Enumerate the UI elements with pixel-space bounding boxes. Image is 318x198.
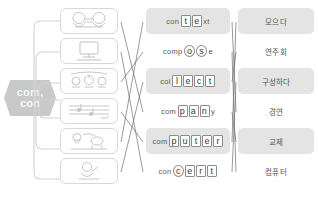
match-line — [121, 112, 143, 142]
highlight-letter: t — [207, 165, 217, 177]
music-score-icon — [61, 99, 117, 123]
match-line — [121, 52, 143, 82]
word-row[interactable]: con t e xt — [146, 8, 230, 34]
highlight-letter: u — [180, 135, 190, 147]
picture-card-column — [60, 8, 118, 188]
match-line — [232, 52, 236, 82]
two-people-talking-icon — [61, 9, 117, 33]
meaning-text: 모으다 — [265, 16, 287, 27]
word-suffix: y — [211, 107, 215, 116]
bracket-tree — [30, 14, 62, 186]
highlight-letter: t — [191, 135, 201, 147]
highlight-letter: p — [178, 105, 188, 117]
meaning-row[interactable]: 컴퓨터 — [238, 158, 314, 184]
highlight-letter: n — [200, 105, 210, 117]
picture-card[interactable] — [60, 158, 118, 184]
highlight-letter: t — [205, 75, 215, 87]
korean-meaning-column: 모으다 연주회 구성하다 경연 교제 컴퓨터 — [238, 8, 314, 188]
word-prefix: con — [159, 167, 172, 176]
meaning-row[interactable]: 모으다 — [238, 8, 314, 34]
meaning-row[interactable]: 연주회 — [238, 38, 314, 64]
computer-monitor-icon — [61, 39, 117, 63]
worksheet-canvas: com, con — [0, 0, 318, 198]
word-context: con t e xt — [166, 15, 209, 27]
person-writing-icon — [61, 159, 117, 183]
animals-gathering-icon — [61, 129, 117, 153]
word-row[interactable]: com p u t e r — [146, 128, 230, 154]
word-suffix: e — [209, 47, 213, 56]
picture-card[interactable] — [60, 68, 118, 94]
match-line — [232, 52, 236, 172]
match-line — [232, 112, 236, 142]
word-compose: comp o s e — [163, 45, 213, 57]
match-line — [121, 82, 143, 172]
highlight-letter: e — [185, 165, 195, 177]
match-line — [232, 82, 236, 172]
picture-card[interactable] — [60, 128, 118, 154]
picture-card[interactable] — [60, 98, 118, 124]
word-computer: com p u t e r — [152, 135, 223, 147]
match-line — [121, 22, 143, 112]
word-prefix: com — [152, 137, 167, 146]
word-row[interactable]: com p a n y — [146, 98, 230, 124]
match-line — [232, 22, 236, 142]
orchestra-concert-icon — [61, 69, 117, 93]
word-concert: con c e r t — [159, 165, 218, 177]
english-word-column: con t e xt comp o s e col l e c t — [146, 8, 230, 188]
word-prefix: com — [161, 107, 176, 116]
highlight-letter: c — [194, 75, 204, 87]
highlight-letter: l — [172, 75, 182, 87]
word-row[interactable]: comp o s e — [146, 38, 230, 64]
meaning-row[interactable]: 경연 — [238, 98, 314, 124]
meaning-row[interactable]: 교제 — [238, 128, 314, 154]
meaning-text: 교제 — [269, 136, 283, 147]
picture-card[interactable] — [60, 8, 118, 34]
highlight-letter: s — [196, 45, 207, 57]
highlight-letter: o — [184, 45, 195, 57]
picture-card[interactable] — [60, 38, 118, 64]
word-prefix: comp — [163, 47, 183, 56]
highlight-letter: r — [213, 135, 223, 147]
word-prefix: con — [166, 17, 179, 26]
word-company: com p a n y — [161, 105, 215, 117]
word-row[interactable]: col l e c t — [146, 68, 230, 94]
word-suffix: xt — [203, 17, 209, 26]
meaning-text: 컴퓨터 — [265, 166, 287, 177]
highlight-letter: t — [181, 15, 191, 27]
meaning-text: 연주회 — [265, 46, 287, 57]
meaning-text: 구성하다 — [262, 76, 291, 87]
highlight-letter: p — [169, 135, 179, 147]
match-line — [121, 52, 143, 172]
meaning-row[interactable]: 구성하다 — [238, 68, 314, 94]
highlight-letter: e — [202, 135, 212, 147]
match-line — [121, 22, 143, 142]
highlight-letter: c — [173, 165, 184, 177]
meaning-text: 경연 — [269, 106, 283, 117]
match-line — [232, 22, 236, 112]
highlight-letter: r — [196, 165, 206, 177]
word-prefix: col — [160, 77, 171, 86]
word-collect: col l e c t — [160, 75, 216, 87]
word-row[interactable]: con c e r t — [146, 158, 230, 184]
highlight-letter: e — [183, 75, 193, 87]
highlight-letter: e — [192, 15, 202, 27]
highlight-letter: a — [189, 105, 199, 117]
